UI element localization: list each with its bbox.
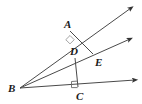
vertex-label-e: E [95,57,102,68]
right-angle-marker-at-a [66,36,74,44]
vertex-label-d: D [70,46,78,57]
vertex-label-c: C [76,91,83,102]
vertex-label-a: A [64,19,71,30]
vertex-label-b: B [8,83,15,94]
geometry-figure: A B C D E [0,0,142,104]
